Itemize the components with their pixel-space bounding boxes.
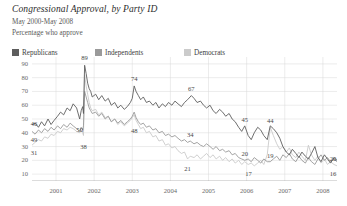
data-label: 17 xyxy=(243,170,255,177)
data-label: 74 xyxy=(128,75,140,82)
legend-item-democrats: Democrats xyxy=(184,41,225,51)
data-label: 16 xyxy=(327,170,339,177)
x-tick-label: 2002 xyxy=(82,187,106,194)
data-label: 46 xyxy=(28,120,40,127)
data-label: 50 xyxy=(74,126,86,133)
data-label: 21 xyxy=(182,165,194,172)
x-tick-label: 2005 xyxy=(197,187,221,194)
chart-note: Percentage who approve xyxy=(12,29,83,37)
legend-swatch-icon xyxy=(12,49,19,56)
data-label: 44 xyxy=(264,117,276,124)
data-label: 45 xyxy=(239,116,251,123)
legend-swatch-icon xyxy=(184,49,191,56)
chart-page: Congressional Approval, by Party ID May … xyxy=(0,0,347,206)
legend-item-republicans: Republicans xyxy=(12,41,58,51)
x-tick-label: 2006 xyxy=(235,187,259,194)
legend-label: Independents xyxy=(105,49,143,57)
y-tick-label: 60 xyxy=(14,101,28,108)
data-label: 19 xyxy=(264,152,276,159)
plot-area xyxy=(32,57,337,181)
y-tick-label: 90 xyxy=(14,60,28,67)
chart-subtitle: May 2000-May 2008 xyxy=(12,18,73,26)
data-label: 31 xyxy=(28,149,40,156)
x-tick-label: 2008 xyxy=(311,187,335,194)
data-label: 67 xyxy=(185,85,197,92)
legend-label: Republicans xyxy=(22,49,58,57)
legend-label: Democrats xyxy=(194,49,225,57)
legend-swatch-icon xyxy=(95,49,102,56)
data-label: 20 xyxy=(327,155,339,162)
y-tick-label: 70 xyxy=(14,87,28,94)
data-label: 20 xyxy=(239,150,251,157)
legend-item-independents: Independents xyxy=(95,41,143,51)
y-tick-label: 80 xyxy=(14,74,28,81)
x-tick-label: 2001 xyxy=(44,187,68,194)
y-tick-label: 40 xyxy=(14,129,28,136)
y-tick-label: 30 xyxy=(14,143,28,150)
page-title: Congressional Approval, by Party ID xyxy=(12,4,157,14)
data-label: 48 xyxy=(128,127,140,134)
y-tick-label: 20 xyxy=(14,156,28,163)
y-tick-label: 50 xyxy=(14,115,28,122)
data-label: 38 xyxy=(77,143,89,150)
x-tick-label: 2007 xyxy=(273,187,297,194)
y-tick-label: 10 xyxy=(14,170,28,177)
x-tick-label: 2003 xyxy=(120,187,144,194)
data-label: 34 xyxy=(184,131,196,138)
data-label: 89 xyxy=(79,54,91,61)
x-tick-label: 2004 xyxy=(158,187,182,194)
data-label: 49 xyxy=(28,136,40,143)
